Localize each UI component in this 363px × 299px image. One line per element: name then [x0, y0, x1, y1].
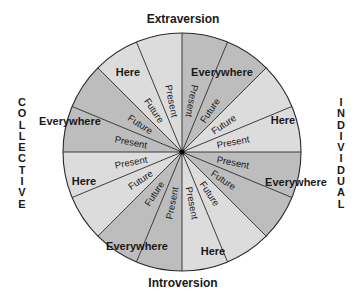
place-label-here: Here: [271, 114, 295, 126]
place-label-here: Here: [72, 175, 96, 187]
wheel-center-hub: [179, 149, 184, 154]
place-label-here: Here: [201, 245, 225, 257]
place-label-everywhere: Everywhere: [39, 115, 101, 127]
place-label-here: Here: [116, 66, 140, 78]
place-label-everywhere: Everywhere: [265, 176, 327, 188]
personality-wheel-diagram: PresentFutureFuturePresentPresentFutureF…: [0, 0, 363, 299]
place-label-everywhere: Everywhere: [106, 240, 168, 252]
place-label-everywhere: Everywhere: [191, 66, 253, 78]
